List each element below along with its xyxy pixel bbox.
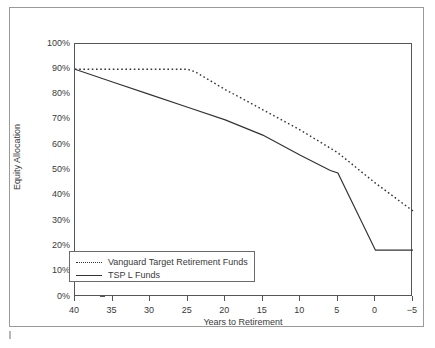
x-tick-mark [299,296,300,301]
x-tick-mark [374,296,375,301]
chart-figure: 0%10%20%30%40%50%60%70%80%90%100% Vangua… [0,0,435,348]
y-axis-label: Equity Allocation [12,92,22,222]
x-axis-label: Years to Retirement [74,317,412,327]
legend-entry-tsp: TSP L Funds [76,268,160,281]
x-tick-mark [112,296,113,301]
legend-swatch-solid [76,270,102,280]
y-tick-label: 30% [32,216,70,225]
x-tick-mark [412,296,413,301]
y-tick-label: 10% [32,266,70,275]
x-tick-mark [224,296,225,301]
corner-artifact [9,331,11,339]
y-tick-label: 50% [32,165,70,174]
x-tick-label: 5 [322,305,352,315]
x-tick-label: 15 [247,305,277,315]
chart-legend: Vanguard Target Retirement Funds TSP L F… [69,251,255,282]
x-tick-mark [149,296,150,301]
y-tick-label: 20% [32,241,70,250]
x-tick-label: 25 [172,305,202,315]
legend-entry-vanguard: Vanguard Target Retirement Funds [76,255,248,268]
x-tick-label: 35 [97,305,127,315]
x-tick-label: 10 [284,305,314,315]
x-tick-mark [337,296,338,301]
y-tick-label: 0% [32,292,70,301]
legend-swatch-dotted [76,257,102,267]
x-tick-label: −5 [397,305,427,315]
series-line-vanguard-target-retirement-funds [75,69,413,211]
plot-area: Vanguard Target Retirement Funds TSP L F… [74,43,412,296]
y-tick-label: 90% [32,64,70,73]
y-tick-label: 40% [32,190,70,199]
x-tick-mark [262,296,263,301]
x-tick-label: 20 [209,305,239,315]
x-tick-mark [187,296,188,301]
y-tick-label: 100% [32,39,70,48]
y-tick-label: 60% [32,140,70,149]
y-axis-ticks: 0%10%20%30%40%50%60%70%80%90%100% [30,43,70,296]
x-tick-label: 40 [59,305,89,315]
y-tick-label: 80% [32,89,70,98]
x-tick-label: 0 [359,305,389,315]
y-tick-label: 70% [32,114,70,123]
legend-label-vanguard: Vanguard Target Retirement Funds [108,257,248,267]
x-tick-label: 30 [134,305,164,315]
x-tick-mark [74,296,75,301]
series-line-tsp-l-funds [75,69,413,250]
legend-label-tsp: TSP L Funds [108,270,160,280]
